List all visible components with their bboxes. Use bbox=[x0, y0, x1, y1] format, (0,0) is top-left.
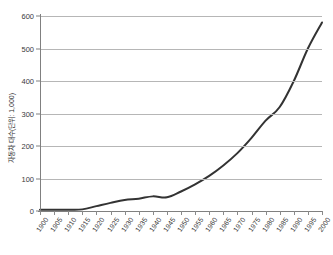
series-path bbox=[40, 23, 322, 210]
y-tick-label: 300 bbox=[2, 109, 34, 118]
x-tick-label: 1930 bbox=[119, 216, 134, 233]
y-axis-line bbox=[40, 14, 41, 213]
x-tick-mark bbox=[181, 211, 182, 215]
y-tick-label: 100 bbox=[2, 174, 34, 183]
x-tick-label: 1990 bbox=[289, 216, 304, 233]
y-tick-mark bbox=[36, 81, 40, 82]
y-tick-mark bbox=[36, 178, 40, 179]
gridline bbox=[40, 179, 322, 180]
y-tick-mark bbox=[36, 113, 40, 114]
x-tick-mark bbox=[280, 211, 281, 215]
x-tick-label: 2000 bbox=[317, 216, 332, 233]
x-tick-label: 1945 bbox=[162, 216, 177, 233]
x-tick-label: 1935 bbox=[134, 216, 149, 233]
x-tick-mark bbox=[294, 211, 295, 215]
x-tick-mark bbox=[68, 211, 69, 215]
x-tick-mark bbox=[223, 211, 224, 215]
y-tick-label: 500 bbox=[2, 44, 34, 53]
plot-area bbox=[40, 16, 322, 211]
x-tick-label: 1920 bbox=[91, 216, 106, 233]
gridline bbox=[40, 114, 322, 115]
x-tick-mark bbox=[125, 211, 126, 215]
x-tick-mark bbox=[153, 211, 154, 215]
y-tick-label: 400 bbox=[2, 77, 34, 86]
x-tick-mark bbox=[167, 211, 168, 215]
y-tick-label: 200 bbox=[2, 142, 34, 151]
y-tick-label: 600 bbox=[2, 12, 34, 21]
x-tick-mark bbox=[111, 211, 112, 215]
gridline bbox=[40, 81, 322, 82]
x-tick-mark bbox=[82, 211, 83, 215]
gridline bbox=[40, 146, 322, 147]
x-tick-label: 1910 bbox=[63, 216, 78, 233]
x-tick-mark bbox=[237, 211, 238, 215]
y-tick-label: 0 bbox=[2, 207, 34, 216]
x-tick-mark bbox=[40, 211, 41, 215]
x-tick-mark bbox=[252, 211, 253, 215]
x-tick-mark bbox=[266, 211, 267, 215]
y-tick-mark bbox=[36, 48, 40, 49]
x-tick-label: 1960 bbox=[204, 216, 219, 233]
x-tick-mark bbox=[96, 211, 97, 215]
line-chart: 자동차 대수(단위: 1,000) 6005004003002001000 19… bbox=[0, 0, 333, 255]
x-tick-label: 1940 bbox=[148, 216, 163, 233]
x-tick-label: 1985 bbox=[275, 216, 290, 233]
y-tick-mark bbox=[36, 16, 40, 17]
x-tick-label: 1950 bbox=[176, 216, 191, 233]
x-tick-label: 1955 bbox=[190, 216, 205, 233]
x-tick-mark bbox=[54, 211, 55, 215]
x-tick-label: 1975 bbox=[246, 216, 261, 233]
x-tick-label: 1980 bbox=[260, 216, 275, 233]
x-tick-label: 1905 bbox=[49, 216, 64, 233]
y-tick-mark bbox=[36, 146, 40, 147]
x-tick-label: 1915 bbox=[77, 216, 92, 233]
x-tick-label: 1995 bbox=[303, 216, 318, 233]
gridline bbox=[40, 16, 322, 17]
x-tick-mark bbox=[322, 211, 323, 215]
x-tick-label: 1970 bbox=[232, 216, 247, 233]
x-tick-mark bbox=[308, 211, 309, 215]
x-tick-mark bbox=[209, 211, 210, 215]
x-tick-label: 1965 bbox=[218, 216, 233, 233]
x-tick-label: 1900 bbox=[35, 216, 50, 233]
x-tick-mark bbox=[139, 211, 140, 215]
x-tick-mark bbox=[195, 211, 196, 215]
x-tick-label: 1925 bbox=[105, 216, 120, 233]
gridline bbox=[40, 49, 322, 50]
